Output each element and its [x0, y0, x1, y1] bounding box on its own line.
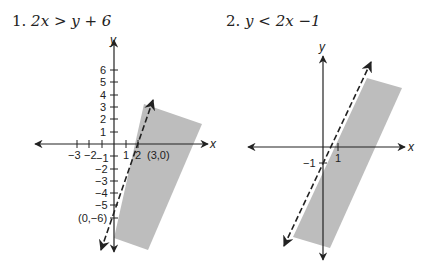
y-tick-label: −1 — [303, 157, 316, 169]
y-axis-label: y — [318, 40, 326, 54]
x-tick-label: 2 — [135, 149, 141, 161]
y-tick-label: 4 — [100, 89, 106, 101]
y-tick-label: −2 — [95, 163, 108, 175]
y-tick-label: −3 — [95, 175, 108, 187]
y-tick-label: 3 — [100, 101, 106, 113]
graph-2: x y 1 −1 — [248, 40, 415, 260]
graph-1: x y −3 −2 −1 1 2 6 — [35, 33, 217, 252]
x-tick-label: 1 — [335, 152, 341, 164]
y-tick-label: −4 — [95, 187, 108, 199]
y-tick-label: 5 — [100, 76, 106, 88]
point-label-3-0: (3,0) — [147, 149, 170, 161]
point-label-0-neg6: (0,−6) — [78, 212, 107, 224]
x-tick-label: −3 — [68, 149, 81, 161]
y-tick-label: 6 — [100, 64, 106, 76]
x-tick-label: 1 — [123, 149, 129, 161]
x-axis-label: x — [209, 137, 217, 151]
x-tick-label: −2 — [84, 149, 97, 161]
y-tick-label: 1 — [100, 126, 106, 138]
x-axis-label: x — [407, 140, 415, 154]
y-axis-label: y — [109, 33, 117, 47]
y-tick-label: 2 — [100, 113, 106, 125]
graphs-canvas: x y −3 −2 −1 1 2 6 — [0, 0, 437, 272]
y-tick-label: −5 — [95, 199, 108, 211]
shaded-region — [114, 104, 202, 250]
